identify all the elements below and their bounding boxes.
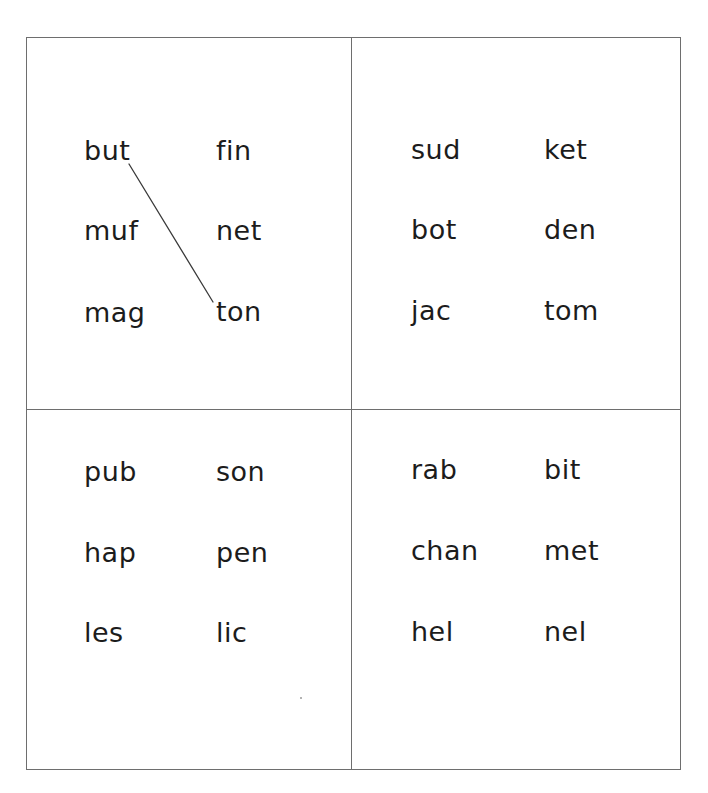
word-left-1[interactable]: but [84, 136, 130, 166]
word-left-2[interactable]: muf [84, 216, 138, 246]
word-right-1[interactable]: fin [216, 136, 252, 166]
word-left-3[interactable]: jac [411, 296, 451, 326]
word-left-3[interactable]: les [84, 618, 124, 648]
word-left-1[interactable]: sud [411, 135, 461, 165]
word-right-1[interactable]: ket [544, 135, 587, 165]
word-right-3[interactable]: ton [216, 297, 262, 327]
word-right-3[interactable]: tom [544, 296, 599, 326]
word-right-2[interactable]: net [216, 216, 262, 246]
word-left-2[interactable]: chan [411, 536, 479, 566]
word-left-1[interactable]: rab [411, 455, 457, 485]
word-right-1[interactable]: bit [544, 455, 581, 485]
scan-speck [300, 697, 302, 699]
word-left-1[interactable]: pub [84, 457, 137, 487]
word-left-3[interactable]: hel [411, 617, 454, 647]
word-right-2[interactable]: den [544, 215, 596, 245]
word-right-2[interactable]: met [544, 536, 599, 566]
word-right-1[interactable]: son [216, 457, 265, 487]
horizontal-divider [26, 409, 681, 410]
word-right-3[interactable]: nel [544, 617, 587, 647]
word-left-2[interactable]: hap [84, 538, 136, 568]
word-left-3[interactable]: mag [84, 298, 146, 328]
word-right-3[interactable]: lic [216, 618, 247, 648]
vertical-divider [351, 37, 352, 770]
word-left-2[interactable]: bot [411, 215, 457, 245]
word-right-2[interactable]: pen [216, 538, 268, 568]
